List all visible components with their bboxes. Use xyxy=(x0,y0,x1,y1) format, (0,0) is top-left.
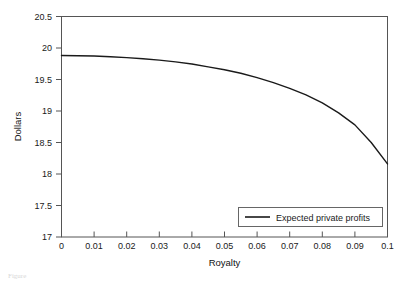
y-tick-label: 17.5 xyxy=(34,201,52,211)
y-axis-tick-labels: 20.5 20 19.5 19 18.5 18 17.5 17 xyxy=(34,12,52,243)
x-tick-label: 0.07 xyxy=(281,241,299,251)
x-tick-label: 0.02 xyxy=(118,241,136,251)
y-tick-label: 18 xyxy=(42,169,52,179)
figure-container: 20.5 20 19.5 19 18.5 18 17.5 17 0 0.0 xyxy=(0,0,404,282)
x-axis-tick-labels: 0 0.01 0.02 0.03 0.04 0.05 0.06 0.07 0.0… xyxy=(59,241,394,251)
x-tick-label: 0.06 xyxy=(248,241,266,251)
legend-entry-label: Expected private profits xyxy=(276,213,371,223)
x-axis-title: Royalty xyxy=(209,257,241,268)
y-axis-title: Dollars xyxy=(12,111,23,141)
x-tick-label: 0 xyxy=(59,241,64,251)
plot-area-frame xyxy=(62,17,388,238)
figure-caption: Figure xyxy=(8,272,26,280)
y-tick-label: 19.5 xyxy=(34,75,52,85)
x-tick-label: 0.01 xyxy=(85,241,103,251)
y-tick-label: 20.5 xyxy=(34,12,52,22)
chart-legend[interactable]: Expected private profits xyxy=(239,208,383,227)
y-tick-label: 17 xyxy=(42,232,52,242)
x-tick-label: 0.04 xyxy=(183,241,201,251)
line-chart: 20.5 20 19.5 19 18.5 18 17.5 17 0 0.0 xyxy=(0,0,404,282)
x-tick-label: 0.05 xyxy=(216,241,234,251)
y-tick-label: 20 xyxy=(42,43,52,53)
y-tick-label: 19 xyxy=(42,106,52,116)
y-tick-label: 18.5 xyxy=(34,138,52,148)
x-tick-label: 0.03 xyxy=(151,241,169,251)
y-axis-ticks xyxy=(56,17,62,238)
x-tick-label: 0.1 xyxy=(381,241,394,251)
x-tick-label: 0.09 xyxy=(346,241,364,251)
x-tick-label: 0.08 xyxy=(314,241,332,251)
